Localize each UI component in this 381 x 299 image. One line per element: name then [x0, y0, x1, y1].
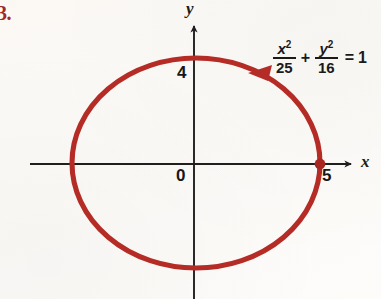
equation-term-y-denominator: 16 [315, 59, 338, 75]
equation-term-y: y2 16 [315, 41, 338, 75]
equation-right-hand-side: 1 [358, 49, 367, 67]
equation-term-x-numerator: x2 [274, 41, 294, 57]
equation-term-y-numerator: y2 [316, 41, 336, 57]
equation-term-y-variable: y [319, 40, 327, 57]
ellipse-curve [72, 58, 320, 268]
x-axis-label: x [361, 152, 370, 172]
equation-plus-operator: + [297, 49, 314, 67]
figure-canvas: 3. y x 4 0 5 x2 25 + y2 16 = 1 [0, 0, 381, 299]
equation-equals-sign: = [339, 49, 358, 67]
equation-term-y-exponent: 2 [328, 39, 334, 50]
x-vertex-tick-label: 5 [322, 166, 331, 186]
equation-term-x-exponent: 2 [286, 39, 292, 50]
ellipse-equation: x2 25 + y2 16 = 1 [272, 41, 367, 75]
y-vertex-tick-label: 4 [177, 63, 186, 83]
equation-term-x: x2 25 [273, 41, 296, 75]
problem-number: 3. [0, 2, 11, 25]
y-axis-label: y [186, 0, 194, 19]
equation-term-x-denominator: 25 [273, 59, 296, 75]
origin-label: 0 [176, 166, 185, 186]
equation-term-x-variable: x [277, 40, 285, 57]
